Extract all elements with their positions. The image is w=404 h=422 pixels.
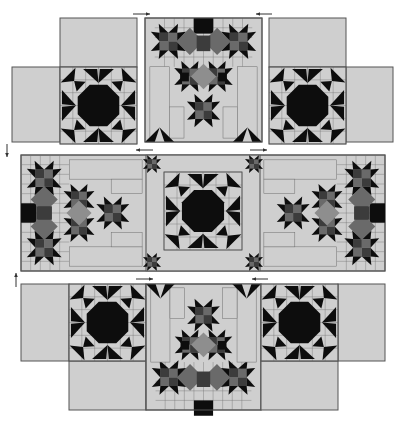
sun-block [261, 284, 338, 361]
arrow-bottom-right-icon [252, 277, 268, 281]
bottom-left-sun-unit [21, 284, 146, 410]
sun-block [69, 284, 146, 361]
middle-center-sun-block [146, 155, 260, 271]
sun-block [60, 67, 137, 144]
arrow-top-right-icon [256, 12, 272, 16]
bottom-right-sun-unit [261, 284, 385, 410]
bottom-center-star-cluster-panel [146, 284, 261, 416]
sun-block [269, 67, 346, 144]
top-right-sun-unit [269, 18, 393, 144]
arrow-top-left-icon [133, 12, 150, 16]
quilt-assembly-diagram [0, 0, 404, 422]
arrow-bottom-left-icon [136, 277, 153, 281]
top-center-star-cluster-panel [145, 18, 262, 142]
arrow-row1-down-icon [5, 144, 9, 157]
arrow-row3-up-icon [14, 273, 18, 287]
arrow-middle-top-left-icon [136, 148, 153, 152]
arrow-middle-top-right-icon [250, 148, 267, 152]
top-left-sun-unit [12, 18, 137, 144]
